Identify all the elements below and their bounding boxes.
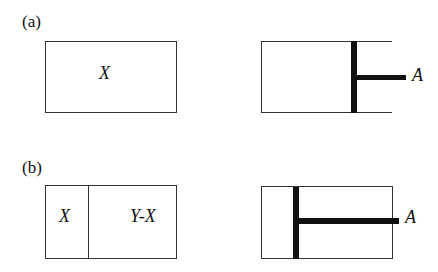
partition-line (88, 185, 89, 259)
rod-label-a: A (405, 208, 416, 226)
panel-label-b: (b) (22, 159, 42, 176)
cylinder-top-wall (261, 41, 392, 42)
piston-rod (357, 75, 406, 80)
region-label-x: X (59, 207, 70, 225)
container-box-a (45, 41, 177, 113)
region-label-y-minus-x: Y-X (130, 207, 156, 225)
region-label-x: X (99, 64, 110, 82)
cylinder-left-wall (261, 41, 262, 113)
panel-label-a: (a) (22, 13, 41, 30)
cylinder-bottom-wall (261, 112, 392, 113)
rod-label-a: A (412, 66, 423, 84)
piston-rod (299, 218, 399, 224)
